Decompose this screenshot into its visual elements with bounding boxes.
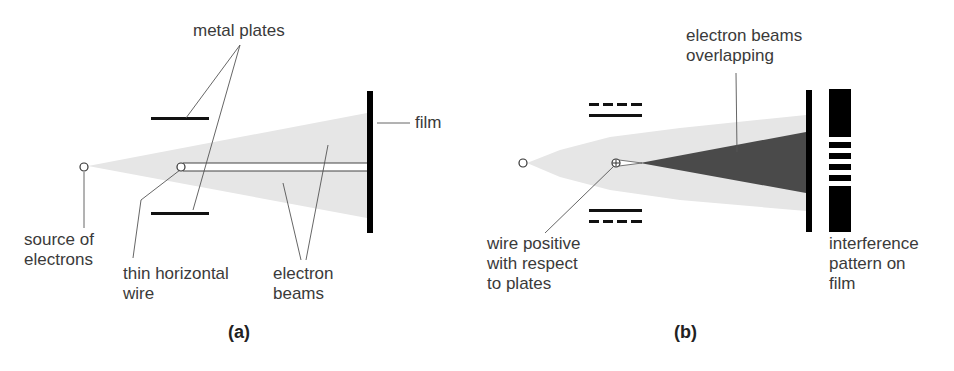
wire-end-icon [177, 163, 185, 171]
electron-source-icon [519, 159, 527, 167]
label-electron-beams-overlapping: electron beams overlapping [686, 26, 802, 66]
diagram-canvas [0, 0, 954, 371]
caption-b: (b) [674, 322, 697, 343]
wire-gap [181, 163, 367, 171]
panel-a-diagram [80, 45, 410, 260]
label-thin-horizontal-wire: thin horizontal wire [123, 264, 229, 304]
top-metal-plate [151, 117, 209, 120]
film-bar [806, 90, 812, 232]
electron-source-icon [80, 163, 88, 171]
positive-wire-icon [612, 159, 620, 167]
label-wire-positive: wire positive with respect to plates [487, 234, 581, 294]
interference-pattern [829, 89, 851, 232]
label-source-of-electrons: source of electrons [24, 230, 94, 270]
bottom-plate-negative [589, 209, 642, 223]
top-plate-negative [589, 103, 642, 117]
label-electron-beams: electron beams [273, 264, 333, 304]
label-metal-plates: metal plates [193, 21, 285, 41]
panel-b-diagram [519, 73, 851, 233]
label-film: film [415, 113, 441, 133]
film-bar [367, 91, 373, 233]
bottom-metal-plate [151, 212, 209, 215]
caption-a: (a) [228, 322, 250, 343]
label-interference-pattern: interference pattern on film [829, 234, 919, 294]
